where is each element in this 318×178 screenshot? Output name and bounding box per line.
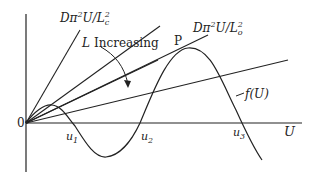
curve-label-leader [236, 93, 244, 96]
diagram-canvas: Dπ2U/L2c Dπ2U/L2o LIncreasing P f(U) 0 U… [0, 0, 318, 178]
root-u2-label: u2 [141, 130, 153, 145]
x-axis-label: U [284, 124, 296, 139]
point-p-label: P [174, 34, 182, 48]
critical-line [26, 30, 80, 123]
f-of-u-curve [26, 48, 262, 160]
arrow-head-icon [124, 80, 131, 88]
origin-label: 0 [17, 116, 25, 130]
l-increasing-label: LIncreasing [81, 36, 159, 50]
curve-label: f(U) [244, 87, 269, 101]
critical-line-label: Dπ2U/L2c [59, 10, 110, 27]
root-u1-label: u1 [66, 130, 78, 145]
root-u3-label: u3 [233, 126, 245, 141]
origin-point [25, 120, 29, 124]
tangent-line-label: Dπ2U/L2o [192, 20, 243, 37]
